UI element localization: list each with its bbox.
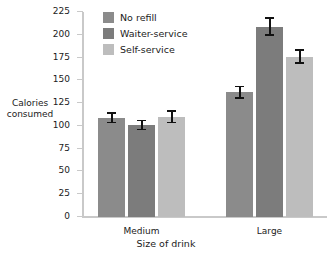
y-axis-title: Calories consumed	[2, 98, 58, 120]
bar-chart: Calories consumed 0255075100125150175200…	[0, 0, 332, 253]
y-tick-label: 200	[53, 30, 70, 39]
legend-item: Self-service	[103, 41, 188, 57]
error-bar	[295, 49, 304, 64]
y-tick-label: 75	[59, 144, 70, 153]
y-tick-label: 0	[64, 212, 70, 221]
y-tick: 100	[77, 125, 83, 126]
error-bar	[167, 110, 176, 123]
error-bar-cap-top	[137, 120, 146, 122]
error-bar-cap-bottom	[265, 34, 274, 36]
error-bar-cap-bottom	[137, 129, 146, 131]
x-group-label: Medium	[124, 226, 160, 236]
error-bar	[107, 112, 116, 123]
legend-item: Waiter-service	[103, 25, 188, 41]
x-axis-title: Size of drink	[0, 238, 332, 249]
error-bar-cap-bottom	[107, 122, 116, 124]
error-bar-cap-bottom	[167, 122, 176, 124]
legend-swatch-no-refill	[103, 12, 114, 23]
error-bar-cap-top	[167, 110, 176, 112]
y-tick: 175	[77, 57, 83, 58]
legend-swatch-self-service	[103, 44, 114, 55]
error-bar-stem	[269, 17, 271, 35]
y-tick-label: 50	[59, 166, 70, 175]
error-bar-cap-bottom	[235, 97, 244, 99]
legend: No refill Waiter-service Self-service	[103, 9, 188, 57]
y-axis-title-line1: Calories	[2, 98, 58, 109]
y-tick-label: 100	[53, 121, 70, 130]
bar	[98, 118, 125, 217]
y-tick-label: 125	[53, 98, 70, 107]
bar	[128, 125, 155, 217]
y-tick: 25	[77, 193, 83, 194]
error-bar	[235, 86, 244, 99]
legend-item: No refill	[103, 9, 188, 25]
y-tick: 200	[77, 34, 83, 35]
legend-swatch-waiter-service	[103, 28, 114, 39]
y-tick: 0	[77, 216, 83, 217]
bar	[158, 117, 185, 217]
error-bar-cap-top	[295, 49, 304, 51]
legend-label-waiter-service: Waiter-service	[120, 28, 188, 39]
bar	[256, 27, 283, 217]
error-bar	[137, 120, 146, 131]
y-tick: 225	[77, 11, 83, 12]
y-tick-label: 25	[59, 189, 70, 198]
y-tick-label: 150	[53, 75, 70, 84]
bar	[286, 57, 313, 217]
legend-label-self-service: Self-service	[120, 44, 175, 55]
y-tick-label: 175	[53, 53, 70, 62]
y-tick: 125	[77, 102, 83, 103]
error-bar-cap-top	[235, 86, 244, 88]
y-tick-label: 225	[53, 7, 70, 16]
y-tick: 75	[77, 148, 83, 149]
y-axis-title-line2: consumed	[2, 109, 58, 120]
y-tick: 50	[77, 170, 83, 171]
x-group-label: Large	[257, 226, 282, 236]
legend-label-no-refill: No refill	[120, 12, 157, 23]
error-bar	[265, 17, 274, 35]
bar	[226, 92, 253, 217]
error-bar-cap-top	[265, 17, 274, 19]
error-bar-cap-top	[107, 112, 116, 114]
y-tick: 150	[77, 79, 83, 80]
error-bar-cap-bottom	[295, 62, 304, 64]
